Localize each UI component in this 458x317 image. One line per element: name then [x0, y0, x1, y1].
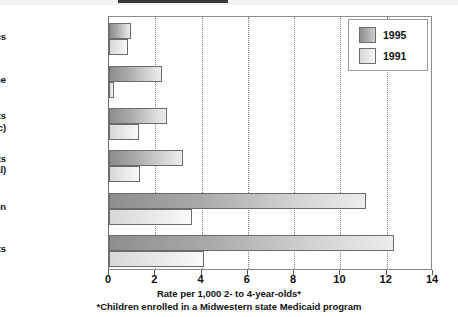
x-tick-label-8: 8 [280, 273, 306, 285]
legend-item-1995[interactable]: 1995 [359, 27, 406, 43]
x-axis-title: Rate per 1,000 2- to 4-year-olds* [0, 288, 458, 299]
bar-1995-2 [109, 108, 167, 124]
x-tick-label-2: 2 [141, 273, 167, 285]
legend-swatch-1995-icon [359, 27, 376, 43]
bar-1991-4 [109, 209, 192, 225]
bar-chart: NeurolepticsClonidineAntidepressants(Tri… [0, 0, 458, 317]
chart-footnote: *Children enrolled in a Midwestern state… [0, 301, 458, 312]
bar-1991-1 [109, 82, 114, 98]
x-tick-label-12: 12 [373, 273, 399, 285]
category-label-line: Antidepressants [0, 110, 6, 122]
x-tick-label-4: 4 [188, 273, 214, 285]
category-label-1: Clonidine [0, 74, 6, 86]
bar-1995-5 [109, 235, 394, 251]
category-label-line: Stimulants [0, 243, 6, 255]
bar-1991-5 [109, 251, 204, 267]
bar-1991-3 [109, 166, 140, 182]
legend: 1995 1991 [348, 19, 428, 71]
x-tick-label-0: 0 [95, 273, 121, 285]
bar-1991-2 [109, 124, 139, 140]
category-label-line: Ritalin [0, 201, 6, 213]
legend-item-1991[interactable]: 1991 [359, 48, 406, 64]
legend-swatch-1991-icon [359, 48, 376, 64]
category-label-line: Antidepressants [0, 153, 6, 165]
bar-1995-3 [109, 150, 183, 166]
x-tick-label-14: 14 [419, 273, 445, 285]
bar-1991-0 [109, 39, 128, 55]
category-label-line: (Tricyclic) [0, 122, 6, 134]
category-label-4: Ritalin [0, 201, 6, 213]
category-label-3: Antidepressants(Total) [0, 153, 6, 176]
category-label-5: Stimulants [0, 243, 6, 255]
bar-1995-4 [109, 193, 366, 209]
category-label-line: Neuroleptics [0, 31, 6, 43]
x-tick-label-6: 6 [234, 273, 260, 285]
category-label-line: Clonidine [0, 74, 6, 86]
legend-label-1991: 1991 [383, 50, 406, 62]
bar-1995-1 [109, 66, 162, 82]
x-tick-label-10: 10 [326, 273, 352, 285]
category-label-2: Antidepressants(Tricyclic) [0, 110, 6, 133]
legend-label-1995: 1995 [383, 29, 406, 41]
bar-1995-0 [109, 23, 131, 39]
category-label-line: (Total) [0, 164, 6, 176]
category-label-0: Neuroleptics [0, 31, 6, 43]
